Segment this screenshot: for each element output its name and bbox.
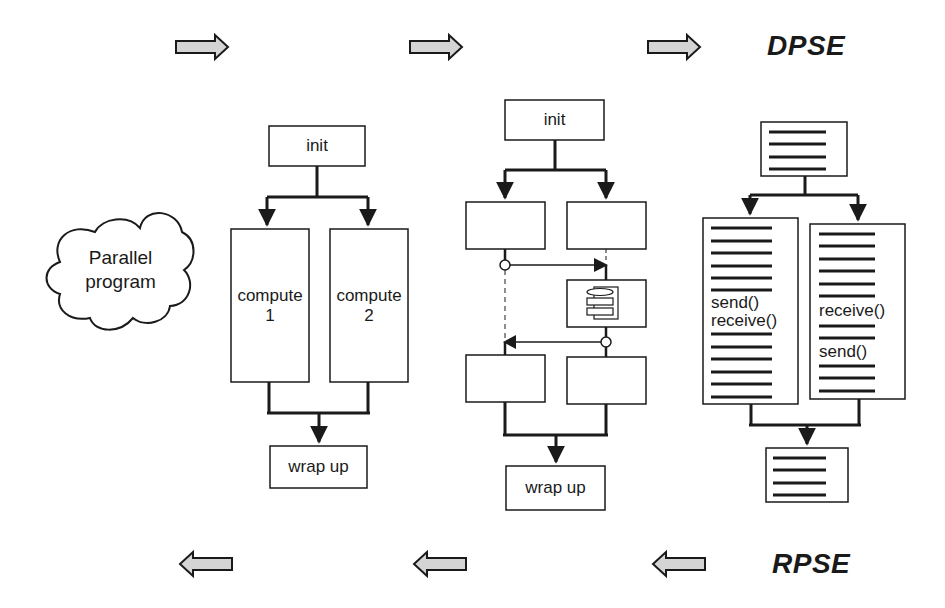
stage1-init-label: init [269, 136, 365, 156]
dpse-label: DPSE [767, 30, 845, 62]
compute1-line-1: compute [231, 286, 309, 306]
top-arrow-3-icon [648, 35, 700, 59]
top-arrow-1-icon [176, 35, 228, 59]
right-receive-label: receive() [819, 302, 885, 320]
rpse-label: RPSE [772, 548, 850, 580]
bottom-arrow-2-icon [414, 552, 466, 576]
compute2-line-1: compute [330, 286, 408, 306]
storage-stack-icon [587, 287, 618, 319]
bottom-arrow-3-icon [653, 552, 705, 576]
cloud-label: Parallel program [58, 246, 183, 294]
left-receive-label: receive() [711, 312, 777, 330]
stage1-wrap-label: wrap up [270, 457, 367, 477]
cloud-line-2: program [58, 270, 183, 294]
right-send-label: send() [819, 343, 867, 361]
compute1-line-2: 1 [231, 306, 309, 326]
stage1-compute2-label: compute 2 [330, 286, 408, 326]
stage2-flowchart [466, 100, 646, 510]
cloud-line-1: Parallel [58, 246, 183, 270]
stage2-wrap-label: wrap up [506, 478, 605, 498]
compute2-line-2: 2 [330, 306, 408, 326]
stage2-init-label: init [505, 110, 604, 130]
diagram-canvas [0, 0, 945, 608]
left-send-label: send() [711, 294, 759, 312]
top-arrow-2-icon [410, 35, 462, 59]
stage1-compute1-label: compute 1 [231, 286, 309, 326]
bottom-arrow-1-icon [180, 552, 232, 576]
